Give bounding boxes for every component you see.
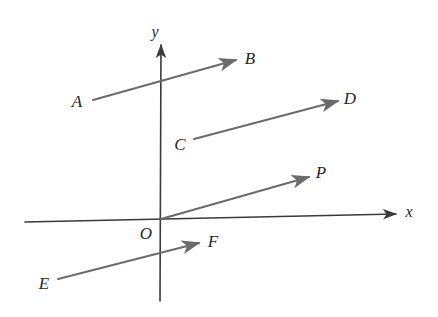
vector-point-label-f: F (208, 233, 218, 250)
vector-point-label-e: E (39, 275, 49, 292)
vector-ab (93, 60, 236, 100)
axes-group (25, 45, 396, 301)
y-axis-line (160, 45, 161, 301)
vector-point-label-a: A (72, 93, 82, 110)
vector-point-label-d: D (344, 90, 356, 107)
vector-cd (194, 101, 338, 139)
vector-point-label-p: P (316, 164, 326, 181)
y-axis-label: y (151, 24, 158, 40)
diagram-canvas (0, 0, 438, 317)
vector-point-label-b: B (245, 50, 255, 67)
vectors-group (58, 60, 338, 279)
x-axis-line (25, 214, 396, 222)
x-axis-label: x (405, 204, 412, 220)
origin-label: O (140, 225, 152, 242)
vector-point-label-c: C (174, 136, 185, 153)
vector-op (161, 177, 309, 219)
vector-diagram-figure: xyOABCDPEF (0, 0, 438, 317)
vector-ef (58, 243, 199, 279)
